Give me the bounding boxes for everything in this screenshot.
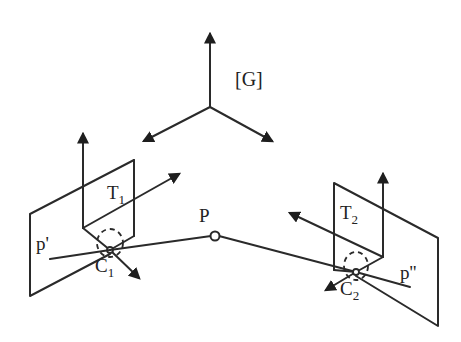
- t1-box-edge: [83, 228, 110, 250]
- camera-1-optical-axis: [110, 250, 139, 278]
- stereo-geometry-diagram: [G] T1 p' C1 P: [0, 0, 461, 342]
- camera-center-2: [353, 269, 359, 275]
- camera-1-side-axis: [83, 174, 179, 228]
- image-point-p-prime: p': [36, 233, 49, 254]
- world-point: P: [199, 205, 220, 241]
- ray-p-c2: [219, 236, 356, 272]
- c2-label: C2: [340, 278, 359, 303]
- camera-2-side-axis: [290, 213, 383, 257]
- world-point-label: P: [199, 205, 210, 226]
- t2-box-edge: [356, 257, 383, 272]
- global-frame-label: [G]: [235, 68, 263, 90]
- camera-1: T1 p' C1: [30, 134, 179, 296]
- world-point-marker: [211, 232, 220, 241]
- t2-label: T2: [340, 202, 358, 227]
- image-point-p-double-prime: p'': [400, 262, 416, 283]
- global-y-axis: [210, 107, 272, 141]
- global-x-axis: [144, 107, 210, 141]
- global-frame: [G]: [144, 34, 272, 141]
- c1-label: C1: [95, 255, 114, 280]
- camera-2: T2 p'' C2: [290, 174, 438, 326]
- ray-c1-p: [110, 236, 211, 250]
- t1-label: T1: [107, 182, 125, 207]
